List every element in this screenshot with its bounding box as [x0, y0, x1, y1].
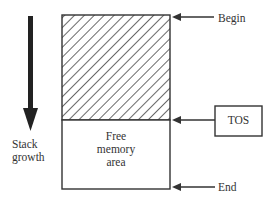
used-stack-region	[62, 15, 170, 120]
stack-growth-arrow	[23, 16, 38, 131]
stack-growth-line2: growth	[12, 151, 45, 164]
free-memory-line3: area	[88, 156, 144, 169]
begin-label: Begin	[218, 12, 245, 25]
stack-growth-line1: Stack	[12, 138, 45, 151]
end-label: End	[218, 181, 237, 194]
tos-pointer-arrow	[172, 116, 215, 124]
end-pointer-arrow	[172, 183, 215, 191]
begin-pointer-arrow	[172, 13, 214, 21]
free-memory-line1: Free	[88, 130, 144, 143]
stack-growth-label: Stack growth	[12, 138, 45, 164]
free-memory-label: Free memory area	[88, 130, 144, 169]
tos-label: TOS	[215, 114, 262, 127]
stack-memory-diagram	[0, 0, 276, 203]
free-memory-line2: memory	[88, 143, 144, 156]
